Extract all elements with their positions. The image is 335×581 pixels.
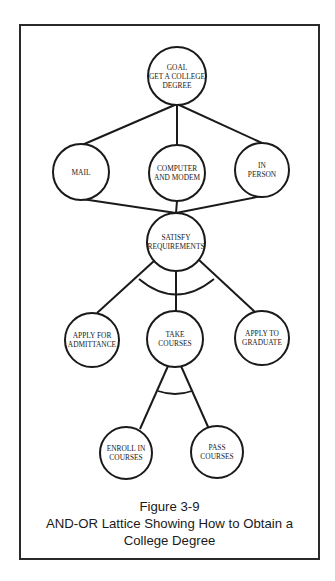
- caption-figure-number: Figure 3-9: [19, 498, 320, 515]
- node-apply-graduate: APPLY TOGRADUATE: [235, 311, 289, 365]
- node-label: COMPUTER: [157, 164, 197, 173]
- and-take-courses-arc: [158, 391, 192, 394]
- node-label: DEGREE: [162, 81, 192, 90]
- node-mail: MAIL: [53, 144, 109, 200]
- node-label: COURSES: [200, 452, 233, 461]
- nodes-layer: GOALGET A COLLEGEDEGREEMAILCOMPUTERAND M…: [53, 47, 289, 479]
- caption-title-line-2: College Degree: [19, 532, 320, 549]
- node-label: GRADUATE: [242, 338, 282, 347]
- edge-mail-to-satisfy: [82, 199, 176, 213]
- node-label: APPLY TO: [245, 329, 279, 338]
- figure-caption: Figure 3-9 AND-OR Lattice Showing How to…: [19, 498, 320, 549]
- node-label: IN: [258, 161, 266, 170]
- edge-satisfy-to-apply-admittance: [97, 261, 154, 313]
- edge-take-courses-to-enroll: [140, 366, 168, 429]
- node-label: APPLY FOR: [73, 331, 112, 340]
- node-label: PASS: [209, 443, 226, 452]
- node-in-person: INPERSON: [235, 143, 289, 197]
- edge-take-courses-to-pass: [181, 366, 209, 429]
- node-label: GET A COLLEGE: [149, 72, 206, 81]
- node-label: MAIL: [72, 168, 91, 177]
- edge-computer-to-satisfy: [176, 201, 177, 213]
- node-label: REQUIREMENTS: [147, 242, 204, 251]
- node-apply-admittance: APPLY FORADMITTANCE: [65, 313, 119, 367]
- node-satisfy: SATISFYREQUIREMENTS: [147, 213, 205, 271]
- caption-title-line-1: AND-OR Lattice Showing How to Obtain a: [19, 515, 320, 532]
- edge-goal-to-in-person: [177, 104, 262, 143]
- node-enroll: ENROLL INCOURSES: [100, 427, 152, 479]
- node-label: GOAL: [167, 63, 188, 72]
- node-label: SATISFY: [161, 233, 191, 242]
- node-label: ADMITTANCE: [68, 340, 117, 349]
- edge-satisfy-to-apply-graduate: [199, 260, 255, 312]
- node-label: AND MODEM: [154, 173, 201, 182]
- node-take-courses: TAKECOURSES: [147, 311, 203, 367]
- node-label: TAKE: [165, 330, 185, 339]
- node-pass: PASSCOURSES: [191, 426, 243, 478]
- node-label: PERSON: [248, 170, 277, 179]
- node-label: COURSES: [109, 453, 142, 462]
- edge-goal-to-mail: [82, 104, 177, 145]
- node-goal: GOALGET A COLLEGEDEGREE: [148, 47, 206, 105]
- node-label: ENROLL IN: [107, 444, 146, 453]
- node-computer: COMPUTERAND MODEM: [149, 145, 205, 201]
- node-label: COURSES: [158, 339, 191, 348]
- and-or-lattice-diagram: GOALGET A COLLEGEDEGREEMAILCOMPUTERAND M…: [0, 0, 335, 581]
